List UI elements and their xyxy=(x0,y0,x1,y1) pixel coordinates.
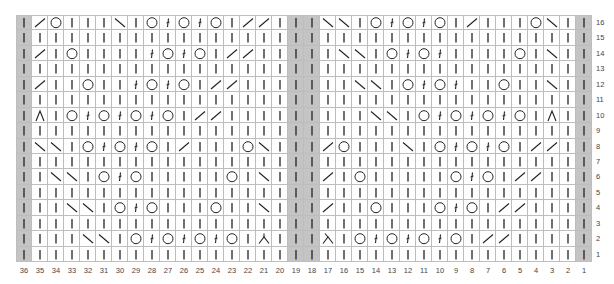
knit-stitch-icon xyxy=(320,46,336,61)
knit-stitch-icon xyxy=(384,77,400,92)
knit-stitch-icon xyxy=(224,123,240,138)
left-decrease-icon xyxy=(80,231,96,246)
twisted-stitch-icon xyxy=(144,108,160,123)
knit-stitch-icon xyxy=(176,30,192,45)
knit-stitch-icon xyxy=(80,46,96,61)
knit-stitch-icon xyxy=(464,123,480,138)
knit-stitch-icon xyxy=(112,247,128,262)
knit-stitch-icon xyxy=(304,30,320,45)
yarn-over-icon xyxy=(112,200,128,215)
knit-stitch-icon xyxy=(576,154,592,169)
knit-stitch-icon xyxy=(176,61,192,76)
knit-stitch-icon xyxy=(64,15,80,30)
yarn-over-icon xyxy=(464,139,480,154)
knit-stitch-icon xyxy=(448,30,464,45)
yarn-over-icon xyxy=(480,108,496,123)
knit-stitch-icon xyxy=(336,216,352,231)
knit-stitch-icon xyxy=(208,61,224,76)
knit-stitch-icon xyxy=(560,92,576,107)
knit-stitch-icon xyxy=(272,169,288,184)
knit-stitch-icon xyxy=(576,46,592,61)
knit-stitch-icon xyxy=(336,30,352,45)
knit-stitch-icon xyxy=(144,247,160,262)
yarn-over-icon xyxy=(384,231,400,246)
yarn-over-icon xyxy=(112,139,128,154)
knit-stitch-icon xyxy=(512,139,528,154)
yarn-over-icon xyxy=(240,139,256,154)
knit-stitch-icon xyxy=(336,108,352,123)
knit-stitch-icon xyxy=(544,92,560,107)
knit-stitch-icon xyxy=(192,247,208,262)
yarn-over-icon xyxy=(80,77,96,92)
column-number-label: 25 xyxy=(192,266,208,275)
knit-stitch-icon xyxy=(400,185,416,200)
twisted-stitch-icon xyxy=(176,231,192,246)
right-decrease-icon xyxy=(32,46,48,61)
twisted-stitch-icon xyxy=(400,231,416,246)
knit-stitch-icon xyxy=(272,61,288,76)
knit-stitch-icon xyxy=(48,77,64,92)
knit-stitch-icon xyxy=(352,139,368,154)
yarn-over-icon xyxy=(416,231,432,246)
yarn-over-icon xyxy=(368,15,384,30)
knit-stitch-icon xyxy=(304,216,320,231)
knit-stitch-icon xyxy=(416,200,432,215)
knit-stitch-icon xyxy=(384,61,400,76)
left-decrease-icon xyxy=(544,77,560,92)
knit-stitch-icon xyxy=(288,30,304,45)
knit-stitch-icon xyxy=(16,92,32,107)
twisted-stitch-icon xyxy=(464,108,480,123)
knit-stitch-icon xyxy=(128,61,144,76)
knit-stitch-icon xyxy=(128,15,144,30)
knit-stitch-icon xyxy=(224,61,240,76)
knit-stitch-icon xyxy=(480,200,496,215)
knit-stitch-icon xyxy=(464,77,480,92)
twisted-stitch-icon xyxy=(192,15,208,30)
knit-stitch-icon xyxy=(240,200,256,215)
knit-stitch-icon xyxy=(224,30,240,45)
knit-stitch-icon xyxy=(144,185,160,200)
knit-stitch-icon xyxy=(96,92,112,107)
knit-stitch-icon xyxy=(64,77,80,92)
knit-stitch-icon xyxy=(304,46,320,61)
yarn-over-icon xyxy=(208,200,224,215)
row-number-label: 2 xyxy=(596,231,612,246)
right-decrease-icon xyxy=(480,231,496,246)
knit-stitch-icon xyxy=(16,108,32,123)
yarn-over-icon xyxy=(496,139,512,154)
knit-stitch-icon xyxy=(368,216,384,231)
double-decrease-icon xyxy=(32,108,48,123)
knit-stitch-icon xyxy=(240,185,256,200)
knit-stitch-icon xyxy=(208,139,224,154)
knit-stitch-icon xyxy=(560,231,576,246)
column-number-label: 16 xyxy=(336,266,352,275)
twisted-stitch-icon xyxy=(96,139,112,154)
knit-stitch-icon xyxy=(240,216,256,231)
knit-stitch-icon xyxy=(512,123,528,138)
left-decrease-icon xyxy=(48,139,64,154)
knit-stitch-icon xyxy=(208,247,224,262)
knit-stitch-icon xyxy=(176,200,192,215)
knit-stitch-icon xyxy=(560,30,576,45)
left-decrease-icon xyxy=(32,139,48,154)
knit-stitch-icon xyxy=(496,185,512,200)
knit-stitch-icon xyxy=(288,61,304,76)
knit-stitch-icon xyxy=(352,30,368,45)
knit-stitch-icon xyxy=(208,185,224,200)
knit-stitch-icon xyxy=(416,123,432,138)
knit-stitch-icon xyxy=(224,185,240,200)
column-number-label: 14 xyxy=(368,266,384,275)
knit-stitch-icon xyxy=(464,231,480,246)
knit-stitch-icon xyxy=(288,15,304,30)
right-decrease-icon xyxy=(224,77,240,92)
row-number-label: 6 xyxy=(596,169,612,184)
knit-stitch-icon xyxy=(160,169,176,184)
knit-stitch-icon xyxy=(528,61,544,76)
knit-stitch-icon xyxy=(320,92,336,107)
knit-stitch-icon xyxy=(480,185,496,200)
knit-stitch-icon xyxy=(336,61,352,76)
knit-stitch-icon xyxy=(416,154,432,169)
knit-stitch-icon xyxy=(480,247,496,262)
knit-stitch-icon xyxy=(256,216,272,231)
knit-stitch-icon xyxy=(400,123,416,138)
